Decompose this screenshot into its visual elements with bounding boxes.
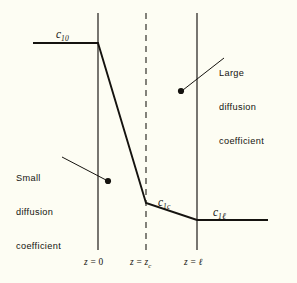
leader-line-large-diffusion	[183, 58, 224, 90]
axis-label-zc-eq: =	[134, 257, 145, 267]
annotation-large-line3: coefficient	[219, 136, 264, 147]
diffusion-concentration-profile-figure: Large diffusion coefficient Small diffus…	[0, 0, 297, 283]
annotation-large-diffusion: Large diffusion coefficient	[219, 45, 264, 170]
axis-label-z-equals-ell: z = ℓ	[184, 257, 203, 267]
annotation-small-line3: coefficient	[16, 241, 61, 252]
small-diffusion-dot	[105, 178, 111, 184]
axis-label-z-equals-zc: z = zc	[130, 257, 152, 269]
annotation-small-line1: Small	[16, 173, 61, 184]
annotation-large-line2: diffusion	[219, 102, 264, 113]
axis-label-z0-value: 0	[98, 257, 103, 267]
annotation-large-line1: Large	[219, 68, 264, 79]
axis-label-ell-eq: =	[188, 257, 199, 267]
axis-label-z-equals-0: z = 0	[84, 257, 103, 267]
annotation-small-line2: diffusion	[16, 207, 61, 218]
curve-label-c1l: c1ℓ	[213, 206, 226, 221]
curve-label-c1c-sub: 1c	[163, 202, 170, 211]
curve-label-c1c: c1c	[158, 196, 170, 211]
curve-label-c10: c10	[56, 28, 69, 43]
axis-label-z0-eq: =	[88, 257, 99, 267]
large-diffusion-dot	[178, 88, 184, 94]
axis-label-zc-sub: c	[148, 262, 151, 269]
curve-label-c1l-ell: ℓ	[222, 211, 226, 221]
axis-label-ell-value: ℓ	[198, 257, 202, 267]
annotation-small-diffusion: Small diffusion coefficient	[16, 150, 61, 275]
curve-label-c10-sub: 10	[61, 34, 69, 43]
leader-line-small-diffusion	[62, 157, 106, 180]
